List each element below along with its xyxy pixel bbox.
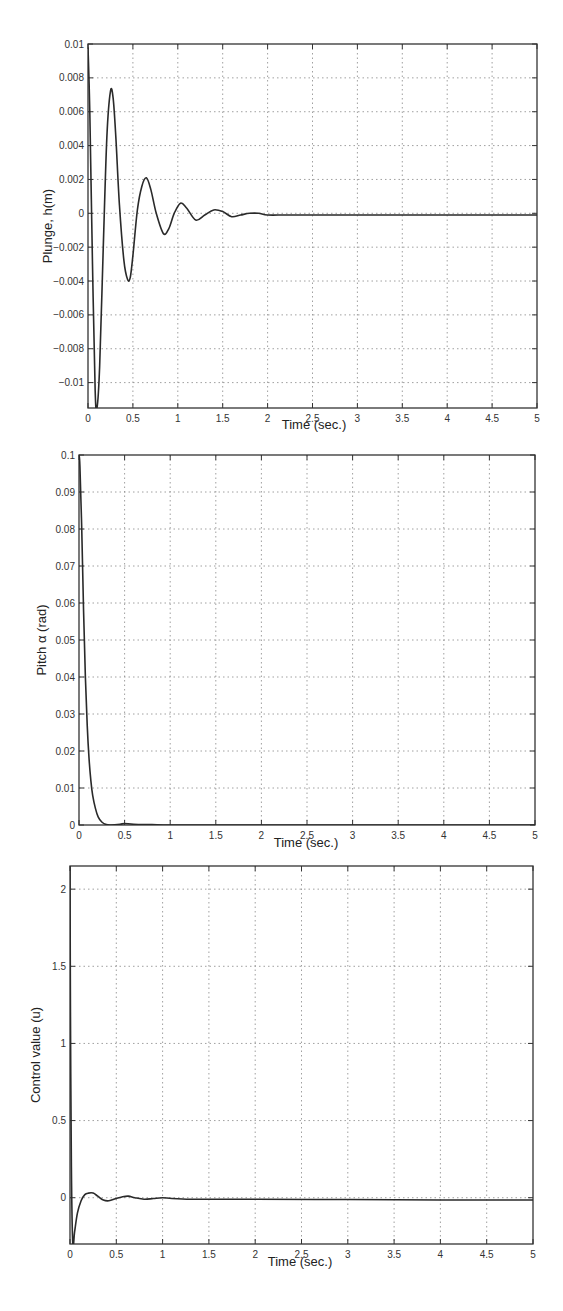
y-tick-label: 0.5 [52,1115,66,1126]
y-tick-label: 2 [60,884,66,895]
x-tick-label: 0.5 [109,1249,123,1260]
x-tick-label: 4 [438,1249,444,1260]
control-plot: 00.511.522.533.544.5500.511.52Time (sec.… [0,0,563,1311]
y-axis-label: Control value (u) [28,1007,43,1103]
x-tick-label: 1.5 [202,1249,216,1260]
x-axis-label: Time (sec.) [268,1254,333,1269]
x-tick-label: 3.5 [387,1249,401,1260]
y-tick-label: 1.5 [52,961,66,972]
x-tick-label: 3 [345,1249,351,1260]
x-tick-label: 2 [252,1249,258,1260]
y-tick-label: 0 [60,1192,66,1203]
x-tick-label: 1 [160,1249,166,1260]
x-tick-label: 0 [67,1249,73,1260]
x-tick-label: 4.5 [480,1249,494,1260]
x-tick-label: 5 [530,1249,536,1260]
y-tick-label: 1 [60,1038,66,1049]
